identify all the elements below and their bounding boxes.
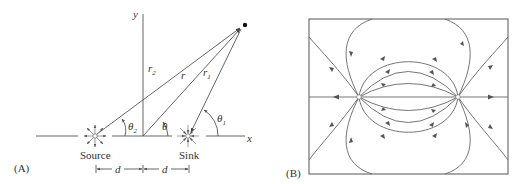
theta-label: θ [162,120,168,132]
panel-a-label: (A) [14,162,30,175]
panel-b-label: (B) [286,167,301,180]
source-point [357,95,362,100]
theta2-arc [122,119,126,136]
r1-label: r1 [203,66,211,81]
panel-b: (B) [286,19,508,180]
panel-a: x y r2 r r1 θ2 θ θ1 [14,8,252,175]
theta1-label: θ1 [217,112,226,127]
sink-icon [177,125,199,147]
figure: x y r2 r r1 θ2 θ θ1 [0,0,524,184]
d-left-label: d [115,163,121,175]
source-icon [84,125,106,147]
x-axis-label: x [246,132,252,144]
dimension-d [96,165,189,173]
d-right-label: d [162,163,168,175]
sink-label: Sink [179,149,200,161]
field-point [243,23,247,27]
r2-label: r2 [148,62,156,77]
r-label: r [181,69,186,81]
sink-point [456,95,461,100]
theta1-arc [204,110,218,136]
source-label: Source [80,149,111,161]
theta2-label: θ2 [128,120,137,135]
r1-vector [191,29,241,132]
y-axis-label: y [132,8,138,20]
